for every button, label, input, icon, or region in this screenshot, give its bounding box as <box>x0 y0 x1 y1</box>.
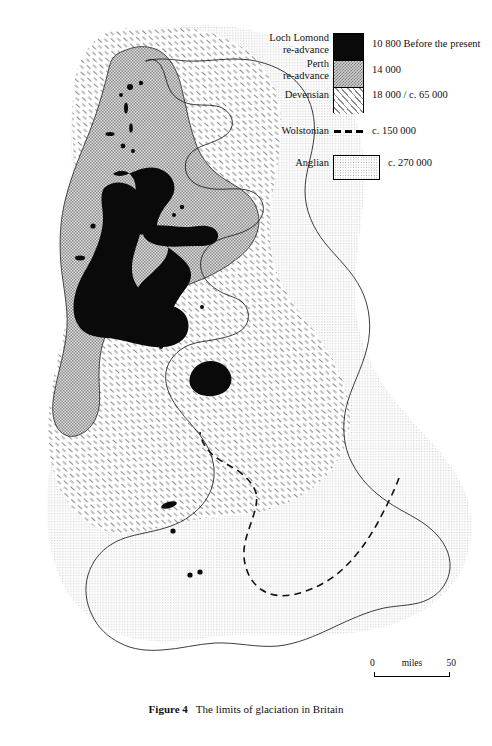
map-legend: Loch Lomond re-advance 10 800 Before the… <box>268 28 492 185</box>
legend-value-devensian: 18 000 / c. 65 000 <box>372 89 448 101</box>
legend-value-anglian: c. 270 000 <box>388 157 432 169</box>
loch-lomond-patch <box>97 260 101 264</box>
legend-label-anglian: Anglian <box>295 157 329 169</box>
legend-label-wolstonian: Wolstonian <box>281 125 329 137</box>
legend-swatch-wolstonian <box>334 130 365 133</box>
legend-label-loch-lomond: Loch Lomond re-advance <box>269 32 329 55</box>
loch-lomond-patch <box>106 132 115 136</box>
loch-lomond-patch <box>93 301 97 305</box>
legend-value-perth: 14 000 <box>372 64 401 76</box>
legend-swatch-loch-lomond <box>334 34 363 60</box>
legend-swatch-perth <box>334 60 363 87</box>
loch-lomond-patch <box>200 305 204 309</box>
loch-lomond-patch <box>139 81 143 85</box>
loch-lomond-patch <box>124 103 128 114</box>
scale-bar-rule <box>374 672 450 677</box>
legend-value-wolstonian: c. 150 000 <box>372 125 416 137</box>
legend-swatch-anglian <box>333 155 380 180</box>
loch-lomond-patch <box>127 84 133 90</box>
loch-lomond-patch <box>154 335 158 339</box>
scale-bar: 0 miles 50 <box>374 658 450 684</box>
loch-lomond-patch <box>159 345 163 349</box>
loch-lomond-patch <box>90 223 95 228</box>
legend-swatch-column <box>333 33 364 113</box>
loch-lomond-patch <box>172 213 176 217</box>
loch-lomond-patch <box>192 242 200 246</box>
loch-lomond-patch <box>180 205 184 209</box>
loch-lomond-patch <box>187 572 192 577</box>
figure-root: Loch Lomond re-advance 10 800 Before the… <box>0 0 492 746</box>
figure-caption: Figure 4The limits of glaciation in Brit… <box>0 702 492 716</box>
legend-value-loch-lomond: 10 800 Before the present <box>372 38 480 50</box>
loch-lomond-eastern-streak <box>143 225 218 246</box>
loch-lomond-patch <box>131 149 135 153</box>
loch-lomond-patch <box>197 569 202 574</box>
scale-max-label: 50 <box>447 658 457 669</box>
loch-lomond-patch <box>126 272 130 284</box>
loch-lomond-patch <box>170 528 175 533</box>
loch-lomond-patch <box>155 189 160 194</box>
legend-label-devensian: Devensian <box>285 89 329 101</box>
figure-number: Figure 4 <box>149 703 188 715</box>
loch-lomond-patch <box>108 316 112 320</box>
loch-lomond-patch <box>129 124 133 133</box>
loch-lomond-patch <box>119 93 123 97</box>
legend-label-perth: Perth re-advance <box>283 58 329 81</box>
legend-swatch-stack: Loch Lomond re-advance 10 800 Before the… <box>268 28 492 114</box>
scale-unit-label: miles <box>374 658 450 669</box>
figure-caption-text: The limits of glaciation in Britain <box>196 703 344 715</box>
legend-swatch-devensian <box>334 87 363 114</box>
legend-row-wolstonian: Wolstonian c. 150 000 <box>268 123 492 153</box>
legend-row-anglian: Anglian c. 270 000 <box>268 155 492 185</box>
loch-lomond-patch <box>121 144 126 149</box>
loch-lomond-patch <box>75 256 85 261</box>
